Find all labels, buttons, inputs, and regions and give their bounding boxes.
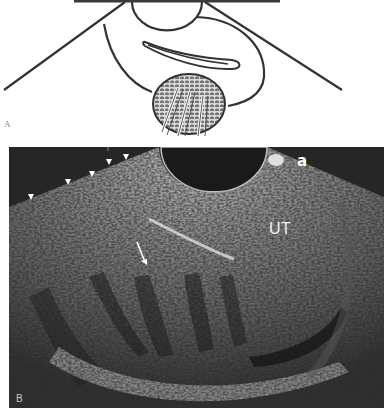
bright-reflector	[268, 154, 284, 166]
probe-semicircle	[132, 2, 202, 30]
ultrasound-image	[9, 147, 384, 408]
figure-panel-a: A	[0, 0, 391, 140]
panel-label-b: B	[16, 393, 23, 404]
panel-label-a: A	[4, 119, 11, 129]
schematic-drawing	[0, 0, 391, 140]
organ-outline-left	[104, 24, 152, 92]
beam-line-right	[205, 2, 342, 90]
elongated-loop	[143, 42, 239, 69]
corner-annotation: a	[297, 155, 307, 167]
uterus-label: UT	[269, 220, 291, 238]
beam-line-left	[4, 2, 125, 90]
figure-panel-b: a UT B	[9, 147, 384, 408]
